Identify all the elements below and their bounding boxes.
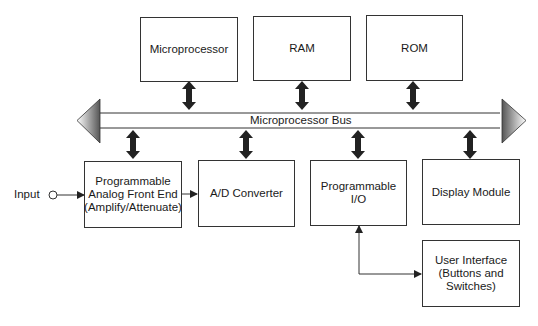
- display-bus-arrow: [463, 130, 477, 159]
- bus-label: Microprocessor Bus: [250, 114, 352, 126]
- bus-left-arrowhead: [77, 99, 100, 143]
- ad-converter-block: A/D Converter: [198, 160, 295, 227]
- ram-label: RAM: [289, 42, 315, 55]
- display-label: Display Module: [432, 186, 511, 199]
- ram-block: RAM: [253, 16, 351, 81]
- ui-label: User Interface (Buttons and Switches): [435, 254, 507, 293]
- rom-label: ROM: [401, 42, 428, 55]
- microprocessor-bus-arrow: [182, 81, 196, 110]
- analog-front-end-block: Programmable Analog Front End (Amplify/A…: [84, 161, 182, 228]
- programmable-io-block: Programmable I/O: [310, 160, 407, 226]
- pio-ui-connector: [359, 226, 421, 274]
- rom-bus-arrow: [406, 81, 420, 110]
- input-terminal-icon: [49, 191, 57, 199]
- ram-bus-arrow: [295, 81, 309, 110]
- afe-label: Programmable Analog Front End (Amplify/A…: [84, 175, 182, 214]
- rom-block: ROM: [366, 15, 463, 81]
- input-label: Input: [14, 188, 40, 200]
- pio-label: Programmable I/O: [321, 180, 396, 206]
- adc-bus-arrow: [239, 130, 253, 159]
- adc-label: A/D Converter: [210, 187, 283, 200]
- afe-bus-arrow: [126, 130, 140, 159]
- display-module-block: Display Module: [422, 159, 520, 225]
- microprocessor-label: Microprocessor: [150, 43, 229, 56]
- pio-bus-arrow: [351, 130, 365, 159]
- microprocessor-block: Microprocessor: [140, 17, 238, 82]
- bus-right-arrowhead: [502, 99, 526, 143]
- user-interface-block: User Interface (Buttons and Switches): [422, 240, 520, 307]
